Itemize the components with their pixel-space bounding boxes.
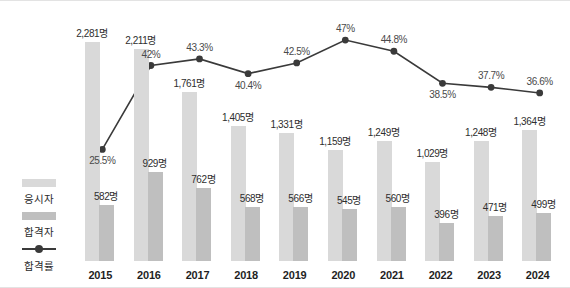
pass-rate-label: 47%: [318, 23, 372, 34]
bar-passers[interactable]: [196, 188, 211, 261]
x-axis-tick: 2024: [513, 269, 562, 281]
bar-passers[interactable]: [293, 207, 308, 261]
bar-group: 2,281명582명2015: [76, 5, 125, 287]
bar-label-applicants: 1,029명: [403, 145, 461, 160]
bar-passers[interactable]: [148, 172, 163, 261]
bar-passers[interactable]: [536, 213, 551, 261]
pass-rate-label: 40.4%: [221, 80, 275, 91]
bar-pair: [465, 31, 514, 261]
bar-passers[interactable]: [99, 205, 114, 261]
pass-rate-label: 44.8%: [367, 34, 421, 45]
bar-passers[interactable]: [342, 209, 357, 261]
pass-rate-label: 37.7%: [464, 70, 518, 81]
legend-label-passers: 합격자: [24, 226, 53, 238]
bar-pair: [125, 31, 174, 261]
pass-rate-label: 43.3%: [173, 42, 227, 53]
pass-rate-label: 38.5%: [416, 89, 470, 100]
bar-pair: [222, 31, 271, 261]
bar-applicants[interactable]: [85, 42, 100, 261]
pass-rate-label: 42%: [124, 49, 178, 60]
bar-passers[interactable]: [439, 223, 454, 261]
bar-label-applicants: 2,211명: [112, 32, 170, 47]
chart-frame: 응시자 합격자 합격률 2,281명582명20152,211명929명2016…: [0, 0, 570, 288]
legend-item-passers: 합격자: [8, 212, 70, 240]
x-axis-tick: 2017: [173, 269, 222, 281]
bar-label-passers: 499명: [514, 196, 570, 211]
bar-group: 2,211명929명2016: [125, 5, 174, 287]
x-axis-tick: 2023: [465, 269, 514, 281]
bar-pair: [76, 31, 125, 261]
legend-swatch-passers: [22, 212, 56, 220]
legend-swatch-pass-rate: [22, 245, 56, 253]
bar-group: 1,364명499명2024: [513, 5, 562, 287]
bar-passers[interactable]: [488, 216, 503, 261]
pass-rate-label: 36.6%: [513, 76, 567, 87]
bar-group: 1,248명471명2023: [465, 5, 514, 287]
bar-pair: [173, 31, 222, 261]
bar-group: 1,029명396명2022: [416, 5, 465, 287]
bar-group: 1,405명568명2018: [222, 5, 271, 287]
legend-label-applicants: 응시자: [24, 193, 53, 205]
x-axis-tick: 2021: [368, 269, 417, 281]
x-axis-tick: 2019: [270, 269, 319, 281]
x-axis-tick: 2018: [222, 269, 271, 281]
x-axis-tick: 2016: [125, 269, 174, 281]
bar-label-applicants: 1,761명: [160, 75, 218, 90]
chart-plot-area: 2,281명582명20152,211명929명20161,761명762명20…: [76, 5, 562, 287]
bar-passers[interactable]: [391, 207, 406, 261]
legend-item-applicants: 응시자: [8, 179, 70, 207]
x-axis-tick: 2020: [319, 269, 368, 281]
bar-label-applicants: 1,331명: [257, 116, 315, 131]
chart-legend: 응시자 합격자 합격률: [8, 179, 70, 279]
bar-label-applicants: 1,249명: [355, 124, 413, 139]
bar-passers[interactable]: [245, 207, 260, 261]
legend-label-pass-rate: 합격률: [24, 260, 53, 272]
bar-group: 1,159명545명2020: [319, 5, 368, 287]
x-axis-tick: 2022: [416, 269, 465, 281]
x-axis-tick: 2015: [76, 269, 125, 281]
pass-rate-label: 42.5%: [270, 46, 324, 57]
legend-swatch-applicants: [22, 179, 56, 187]
pass-rate-label: 25.5%: [75, 155, 129, 166]
legend-item-pass-rate: 합격률: [8, 245, 70, 274]
bar-pair: [513, 31, 562, 261]
bar-label-applicants: 1,364명: [500, 113, 558, 128]
